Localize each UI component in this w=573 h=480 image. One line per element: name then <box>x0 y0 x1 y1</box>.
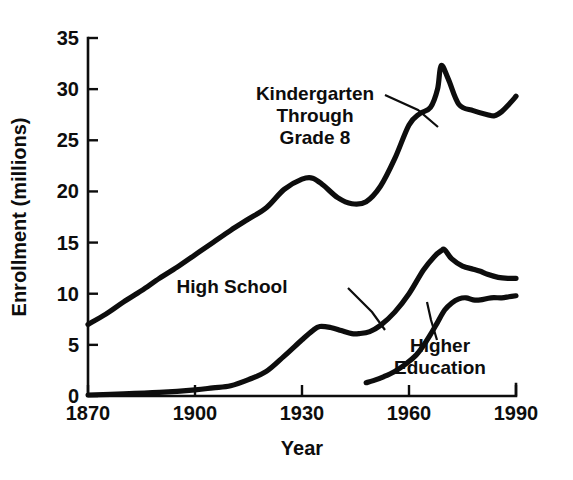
series-label-line: Through <box>276 105 353 126</box>
series-label: KindergartenThroughGrade 8 <box>256 83 374 148</box>
x-tick-label: 1930 <box>280 402 325 424</box>
x-tick-labels-group: 18701900193019601990 <box>66 402 539 424</box>
y-axis-title: Enrollment (millions) <box>8 118 30 317</box>
series-label-line: Grade 8 <box>280 127 351 148</box>
y-tick-labels-group: 05101520253035 <box>57 27 79 407</box>
series-label: High School <box>177 276 288 297</box>
y-tick-label: 20 <box>57 180 79 202</box>
series-label: HigherEducation <box>394 335 486 378</box>
x-tick-label: 1960 <box>387 402 432 424</box>
enrollment-line-chart: 05101520253035 18701900193019601990 Enro… <box>0 0 573 480</box>
y-tick-label: 10 <box>57 283 79 305</box>
series-label-line: Education <box>394 357 486 378</box>
x-axis-title: Year <box>281 437 323 459</box>
series-annotations-group: KindergartenThroughGrade 8High SchoolHig… <box>177 83 486 378</box>
y-tick-label: 15 <box>57 232 79 254</box>
y-tick-label: 30 <box>57 78 79 100</box>
y-tick-label: 5 <box>68 334 79 356</box>
series-label-line: Higher <box>410 335 471 356</box>
x-tick-label: 1870 <box>66 402 111 424</box>
leader-line <box>348 288 385 330</box>
series-label-line: Kindergarten <box>256 83 374 104</box>
x-tick-label: 1900 <box>173 402 218 424</box>
y-tick-label: 35 <box>57 27 79 49</box>
y-tick-label: 25 <box>57 129 79 151</box>
chart-canvas: 05101520253035 18701900193019601990 Enro… <box>0 0 573 480</box>
series-label-line: High School <box>177 276 288 297</box>
x-tick-label: 1990 <box>494 402 539 424</box>
